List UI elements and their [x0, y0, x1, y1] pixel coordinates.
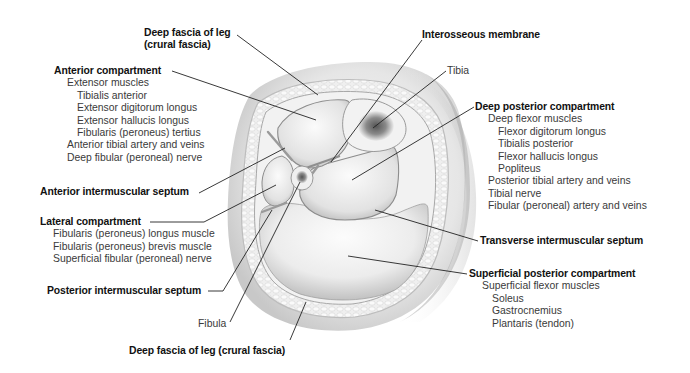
- label-deep-fascia-top-line1: Deep fascia of leg: [144, 27, 231, 39]
- label-item: Gastrocnemius: [469, 305, 635, 317]
- fibula-bone: [291, 166, 313, 190]
- label-deep-fascia-top-line2: (crural fascia): [144, 39, 231, 51]
- label-fibula: Fibula: [198, 318, 226, 330]
- label-item: Popliteus: [475, 163, 647, 175]
- label-item: Extensor digitorum longus: [54, 102, 204, 114]
- label-item: Fibularis (peroneus) brevis muscle: [40, 241, 215, 253]
- label-group-anterior-compartment: Anterior compartment Extensor muscles Ti…: [54, 65, 204, 164]
- label-lateral-compartment-title: Lateral compartment: [40, 216, 215, 228]
- label-item: Deep fibular (peroneal) nerve: [54, 152, 204, 164]
- label-item: Extensor hallucis longus: [54, 115, 204, 127]
- label-item: Superficial flexor muscles: [469, 280, 635, 292]
- label-group-deep-posterior-compartment: Deep posterior compartment Deep flexor m…: [475, 101, 647, 213]
- label-anterior-compartment-title: Anterior compartment: [54, 65, 204, 77]
- label-posterior-intermuscular-septum: Posterior intermuscular septum: [47, 285, 201, 297]
- diagram-stage: Deep fascia of leg (crural fascia) Anter…: [0, 0, 690, 373]
- label-interosseous-membrane: Interosseous membrane: [422, 29, 540, 41]
- label-item: Tibialis posterior: [475, 138, 647, 150]
- label-item: Plantaris (tendon): [469, 318, 635, 330]
- label-deep-fascia-bottom: Deep fascia of leg (crural fascia): [129, 345, 285, 357]
- label-item: Superficial fibular (peroneal) nerve: [40, 253, 215, 265]
- label-item: Flexor hallucis longus: [475, 151, 647, 163]
- label-item: Fibularis (peroneus) longus muscle: [40, 228, 215, 240]
- label-item: Tibialis anterior: [54, 90, 204, 102]
- label-tibia: Tibia: [447, 65, 469, 77]
- label-item: Tibial nerve: [475, 188, 647, 200]
- label-transverse-intermuscular-septum: Transverse intermuscular septum: [480, 235, 643, 247]
- label-group-lateral-compartment: Lateral compartment Fibularis (peroneus)…: [40, 216, 215, 266]
- label-anterior-intermuscular-septum: Anterior intermuscular septum: [40, 186, 189, 198]
- label-group-superficial-posterior-compartment: Superficial posterior compartment Superf…: [469, 268, 635, 330]
- label-deep-posterior-compartment-title: Deep posterior compartment: [475, 101, 647, 113]
- label-item: Flexor digitorum longus: [475, 126, 647, 138]
- label-item: Deep flexor muscles: [475, 113, 647, 125]
- label-item: Posterior tibial artery and veins: [475, 175, 647, 187]
- label-item: Anterior tibial artery and veins: [54, 139, 204, 151]
- label-item: Soleus: [469, 293, 635, 305]
- label-superficial-posterior-compartment-title: Superficial posterior compartment: [469, 268, 635, 280]
- label-deep-fascia-top: Deep fascia of leg (crural fascia): [144, 27, 231, 52]
- label-item: Extensor muscles: [54, 77, 204, 89]
- label-item: Fibular (peroneal) artery and veins: [475, 200, 647, 212]
- label-item: Fibularis (peroneus) tertius: [54, 127, 204, 139]
